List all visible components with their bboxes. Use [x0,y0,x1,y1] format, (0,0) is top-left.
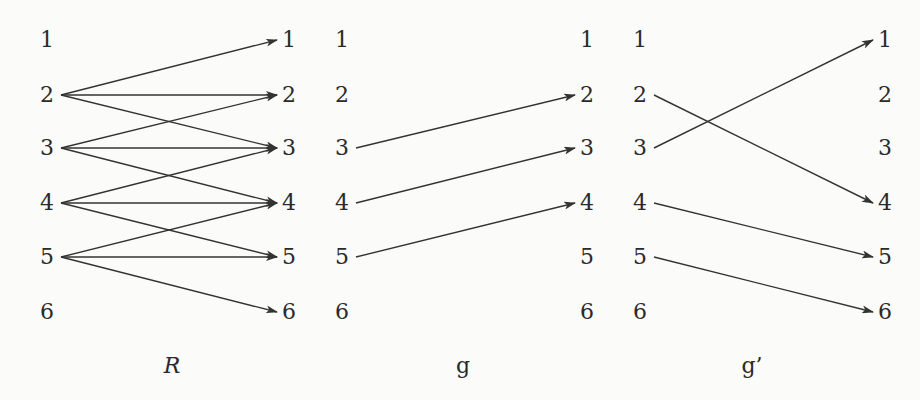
edge-g-prime-4-to-5 [654,203,873,257]
node-r-right-6: 6 [279,301,299,323]
edge-g-prime-5-to-6 [654,257,873,312]
node-r-right-1: 1 [279,29,299,51]
node-g-prime-left-4: 4 [630,192,650,214]
edge-layer [61,40,873,312]
node-g-prime-left-6: 6 [630,301,650,323]
panel-label-g: g [456,355,470,377]
node-r-right-2: 2 [279,84,299,106]
edge-g-4-to-3 [356,148,575,203]
node-g-prime-right-1: 1 [875,29,895,51]
node-g-right-5: 5 [577,246,597,268]
edge-g-prime-2-to-4 [654,95,873,203]
node-r-left-6: 6 [37,301,57,323]
relation-diagram [0,0,920,400]
node-g-prime-left-1: 1 [630,29,650,51]
node-r-left-3: 3 [37,137,57,159]
node-g-left-5: 5 [332,246,352,268]
node-g-left-2: 2 [332,84,352,106]
node-g-prime-right-2: 2 [875,84,895,106]
node-g-prime-right-5: 5 [875,246,895,268]
node-g-left-3: 3 [332,137,352,159]
node-r-left-5: 5 [37,246,57,268]
panel-label-g-prime: g’ [741,355,762,377]
node-g-prime-left-5: 5 [630,246,650,268]
edge-g-3-to-2 [356,95,575,148]
node-g-prime-right-6: 6 [875,301,895,323]
node-r-left-4: 4 [37,192,57,214]
node-r-left-1: 1 [37,29,57,51]
node-g-right-2: 2 [577,84,597,106]
edge-g-5-to-4 [356,203,575,257]
node-g-prime-left-2: 2 [630,84,650,106]
edge-g-prime-3-to-1 [654,40,873,148]
node-r-right-3: 3 [279,137,299,159]
node-r-right-4: 4 [279,192,299,214]
node-g-left-1: 1 [332,29,352,51]
node-g-prime-right-3: 3 [875,137,895,159]
edge-r-2-to-1 [61,40,277,95]
node-r-right-5: 5 [279,246,299,268]
node-g-right-1: 1 [577,29,597,51]
node-g-right-6: 6 [577,301,597,323]
panel-label-r: R [164,355,181,377]
node-g-left-4: 4 [332,192,352,214]
node-g-right-4: 4 [577,192,597,214]
node-g-prime-right-4: 4 [875,192,895,214]
node-r-left-2: 2 [37,84,57,106]
node-g-left-6: 6 [332,301,352,323]
node-g-prime-left-3: 3 [630,137,650,159]
edge-r-5-to-6 [61,257,277,312]
node-g-right-3: 3 [577,137,597,159]
